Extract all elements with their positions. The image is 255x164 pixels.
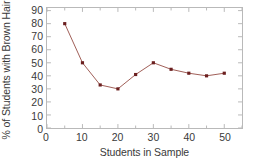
y-axis-tick-labels: 0102030405060708090 [17, 0, 43, 132]
x-axis-tick-labels: 01020304050 [46, 131, 243, 145]
y-tick-label: 60 [17, 44, 43, 55]
plot-area [46, 7, 243, 129]
data-point-marker [99, 83, 102, 86]
y-tick-label: 50 [17, 57, 43, 68]
y-tick-label: 80 [17, 17, 43, 28]
data-line-series [65, 24, 225, 89]
y-tick-label: 70 [17, 31, 43, 42]
data-point-markers [63, 22, 226, 90]
x-tick-label: 30 [148, 131, 160, 144]
x-tick-label: 0 [43, 131, 49, 144]
y-tick-label: 30 [17, 84, 43, 95]
data-point-marker [223, 72, 226, 75]
data-point-marker [205, 74, 208, 77]
x-tick-label: 20 [112, 131, 124, 144]
x-tick-label: 40 [183, 131, 195, 144]
y-tick-label: 40 [17, 70, 43, 81]
x-tick-label: 50 [219, 131, 231, 144]
data-point-marker [81, 61, 84, 64]
data-point-marker [116, 87, 119, 90]
data-point-marker [152, 61, 155, 64]
y-axis-title: % of Students with Brown Hair [0, 0, 13, 140]
y-tick-label: 90 [17, 4, 43, 15]
x-tick-label: 10 [76, 131, 88, 144]
y-tick-label: 0 [17, 124, 43, 135]
data-point-marker [134, 73, 137, 76]
chart-figure: % of Students with Brown Hair 0102030405… [0, 0, 255, 164]
y-tick-label: 20 [17, 97, 43, 108]
data-point-marker [170, 68, 173, 71]
data-point-marker [63, 22, 66, 25]
x-axis-tick-marks [47, 8, 242, 128]
y-tick-label: 10 [17, 110, 43, 121]
data-point-marker [187, 72, 190, 75]
x-axis-title: Students in Sample [46, 146, 243, 159]
y-axis-tick-marks [47, 11, 242, 128]
line-chart-svg [47, 8, 242, 128]
